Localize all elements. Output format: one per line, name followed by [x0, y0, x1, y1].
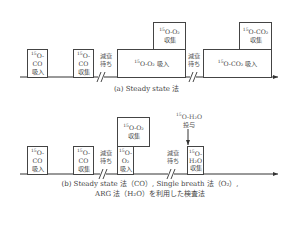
a-o2-collect-box: 15O-O₂ 収集: [153, 22, 186, 50]
b-h2o-injection-label: 15O-H₂O 投与: [174, 113, 204, 129]
b-o2-collect-box: 15O-O₂ 収集: [117, 117, 150, 147]
a-co-inhale-box: 15O-CO 吸入: [27, 49, 48, 78]
a-caption: (a) Steady state 法: [0, 85, 293, 94]
b-co-collect-box: 15O-CO 収集: [73, 146, 94, 175]
a-co-collect-box: 15O-CO 収集: [73, 49, 94, 78]
b-caption-line2: ARG 法（H₂O）を利用した検査法: [40, 190, 260, 199]
b-co-inhale-box: 15O-CO 吸入: [27, 146, 48, 175]
a-decay-wait-2: 減衰待ち: [185, 52, 203, 68]
b-caption-line1: (b) Steady state 法（CO）, Single breath 法（…: [40, 180, 260, 189]
a-co2-collect-box: 15O-CO₂ 収集: [239, 22, 272, 50]
b-h2o-collect-box: 15O- H₂O 収集: [187, 146, 204, 175]
b-o2-inhale-box: 15O-O₂ 吸入: [117, 146, 134, 175]
a-decay-wait-1: 減衰待ち: [96, 52, 116, 68]
b-decay-wait-1: 減衰待ち: [96, 149, 116, 165]
b-decay-wait-2: 減衰待ち: [163, 149, 183, 165]
a-co2-inhale-box: 15O-CO₂ 吸入: [203, 49, 272, 78]
a-o2-inhale-box: 15O-O₂ 吸入: [117, 49, 186, 78]
